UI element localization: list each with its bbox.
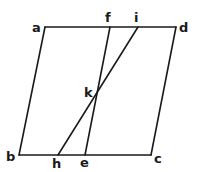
label-f: f: [105, 10, 111, 25]
label-d: d: [179, 20, 188, 35]
label-c: c: [154, 151, 162, 166]
label-h: h: [52, 156, 61, 171]
segment-dc: [151, 27, 176, 155]
label-i: i: [134, 10, 138, 25]
parallelogram-diagram: a d b c f i e h k: [0, 0, 199, 172]
label-k: k: [84, 85, 93, 100]
segment-ih: [58, 27, 138, 155]
label-a: a: [32, 20, 41, 35]
label-e: e: [80, 155, 89, 170]
segment-ba: [19, 27, 45, 155]
label-b: b: [6, 149, 15, 164]
